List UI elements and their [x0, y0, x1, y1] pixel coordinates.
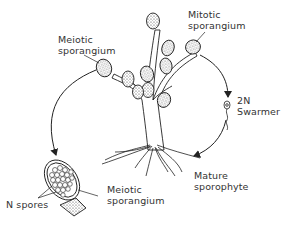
label-2n-swarmer: 2N Swarmer	[237, 95, 280, 117]
label-line: Mature	[194, 170, 249, 181]
meiotic-sporangium-tip	[94, 57, 114, 79]
arrow-to-swarmer	[200, 55, 228, 97]
arrow-to-meiotic-sporangium	[51, 70, 96, 155]
life-cycle-diagram: Meiotic sporangium Mitotic sporangium 2N…	[0, 0, 291, 230]
label-line: Meiotic	[58, 34, 116, 45]
label-mature-sporophyte: Mature sporophyte	[194, 170, 249, 192]
label-meiotic-sporangium-bottom: Meiotic sporangium	[107, 184, 165, 206]
sporophyte-stalks	[112, 30, 197, 150]
mitotic-sporangium-tip	[184, 38, 203, 56]
label-line: 2N	[237, 95, 280, 106]
label-line: Swarmer	[237, 106, 280, 117]
arrow-to-mature-sporophyte	[194, 120, 226, 156]
label-line: Mitotic	[188, 9, 246, 20]
label-meiotic-sporangium-top: Meiotic sporangium	[58, 34, 116, 56]
label-line: sporangium	[58, 45, 116, 56]
label-line: sporophyte	[194, 181, 249, 192]
label-line: sporangium	[188, 20, 246, 31]
label-line: sporangium	[107, 195, 165, 206]
label-mitotic-sporangium: Mitotic sporangium	[188, 9, 246, 31]
label-line: Meiotic	[107, 184, 165, 195]
label-n-spores: N spores	[6, 199, 48, 210]
